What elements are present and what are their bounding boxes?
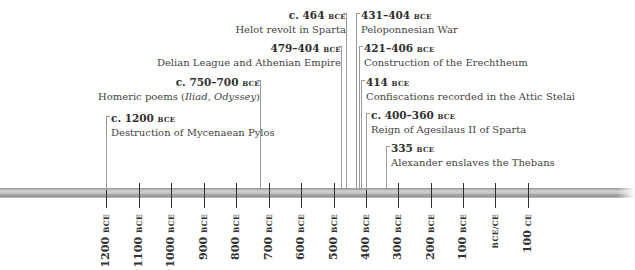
axis-tick — [463, 183, 464, 208]
event-date-era: BCE — [414, 12, 432, 21]
timeline-axis — [0, 188, 635, 198]
timeline-event: c. 1200 BCEDestruction of Mycenaean Pylo… — [111, 112, 275, 139]
axis-tick — [334, 183, 335, 208]
axis-tick-label: 200 BCE — [424, 214, 438, 270]
axis-tick — [236, 183, 237, 208]
event-date-era: BCE — [323, 45, 341, 54]
event-date: c. 750–700 BCE — [98, 76, 260, 90]
event-description: Peloponnesian War — [361, 23, 458, 36]
event-date: 421–406 BCE — [364, 42, 528, 56]
axis-tick-label: 500 BCE — [327, 214, 341, 270]
event-date: 479–404 BCE — [157, 42, 341, 56]
event-date-era: BCE — [417, 145, 435, 154]
event-description: Reign of Agesilaus II of Sparta — [371, 123, 526, 136]
event-bracket — [106, 116, 110, 117]
event-date-value: 479–404 — [270, 42, 323, 54]
tick-year: 400 — [359, 233, 372, 260]
axis-fade — [617, 185, 635, 201]
tick-year: 800 — [229, 233, 242, 260]
tick-era: BCE — [394, 214, 403, 233]
axis-tick — [398, 183, 399, 208]
timeline-event: 431–404 BCEPeloponnesian War — [361, 9, 458, 36]
event-description: Alexander enslaves the Thebans — [391, 156, 555, 169]
tick-year: 700 — [262, 233, 275, 260]
event-date-value: c. 400–360 — [371, 109, 437, 121]
event-description: Delian League and Athenian Empire — [157, 56, 341, 69]
event-date-value: c. 464 — [289, 9, 328, 21]
tick-year: 200 — [424, 233, 437, 260]
axis-tick — [204, 183, 205, 208]
tick-era: BCE — [135, 214, 144, 233]
event-date-era: BCE — [242, 79, 260, 88]
event-date: c. 1200 BCE — [111, 112, 275, 126]
tick-era: BCE — [297, 214, 306, 233]
tick-era: BCE — [232, 214, 241, 233]
event-date-value: 431–404 — [361, 9, 414, 21]
event-date-era: BCE — [158, 115, 176, 124]
tick-year: 600 — [294, 233, 307, 260]
tick-era: BCE/CE — [491, 214, 500, 248]
event-bracket — [366, 113, 370, 114]
axis-tick-label: 1200 BCE — [99, 214, 113, 270]
event-date-value: 414 — [366, 76, 392, 88]
axis-tick-label: 1000 BCE — [164, 214, 178, 270]
event-bracket — [359, 46, 363, 47]
axis-tick — [171, 183, 172, 208]
event-description: Helot revolt in Sparta — [235, 23, 346, 36]
event-date-era: BCE — [328, 12, 346, 21]
timeline-event: 414 BCEConfiscations recorded in the Att… — [366, 76, 575, 103]
event-connector — [346, 13, 347, 190]
timeline-event: c. 750–700 BCEHomeric poems (Iliad, Odys… — [98, 76, 260, 103]
event-date-era: BCE — [392, 79, 410, 88]
timeline-event: 479–404 BCEDelian League and Athenian Em… — [157, 42, 341, 69]
event-connector — [359, 46, 360, 190]
tick-era: BCE — [265, 214, 274, 233]
event-connector — [361, 80, 362, 190]
axis-tick — [301, 183, 302, 208]
timeline: 1200 BCE1100 BCE1000 BCE900 BCE800 BCE70… — [0, 0, 635, 270]
axis-tick-label: 900 BCE — [197, 214, 211, 270]
timeline-event: 335 BCEAlexander enslaves the Thebans — [391, 142, 555, 169]
event-connector — [366, 113, 367, 190]
axis-tick-label: BCE/CE — [488, 214, 502, 270]
timeline-event: c. 464 BCEHelot revolt in Sparta — [235, 9, 346, 36]
event-connector — [341, 46, 342, 190]
event-connector — [260, 80, 261, 190]
event-description: Construction of the Erechtheum — [364, 56, 528, 69]
axis-tick — [139, 183, 140, 208]
tick-year: 100 — [521, 226, 534, 253]
tick-era: CE — [524, 214, 533, 226]
axis-tick — [431, 183, 432, 208]
axis-tick-label: 700 BCE — [262, 214, 276, 270]
event-description: Destruction of Mycenaean Pylos — [111, 126, 275, 139]
tick-year: 100 — [456, 233, 469, 260]
event-bracket — [386, 146, 390, 147]
event-description-part: Homeric poems ( — [98, 91, 185, 102]
event-date: 414 BCE — [366, 76, 575, 90]
event-date-value: 335 — [391, 142, 417, 154]
event-connector — [106, 116, 107, 190]
event-date: c. 464 BCE — [235, 9, 346, 23]
axis-tick-label: 800 BCE — [229, 214, 243, 270]
event-date-value: c. 1200 — [111, 112, 158, 124]
axis-tick-label: 1100 BCE — [132, 214, 146, 270]
event-connector — [386, 146, 387, 190]
tick-year: 1100 — [132, 233, 145, 267]
event-connector — [356, 13, 357, 190]
event-description-part: ) — [256, 91, 260, 102]
tick-era: BCE — [427, 214, 436, 233]
event-date: c. 400–360 BCE — [371, 109, 526, 123]
event-description-part: Iliad — [185, 91, 208, 102]
axis-tick-label: 300 BCE — [391, 214, 405, 270]
timeline-event: 421–406 BCEConstruction of the Erechtheu… — [364, 42, 528, 69]
tick-year: 1000 — [164, 233, 177, 267]
tick-year: 500 — [327, 233, 340, 260]
tick-era: BCE — [330, 214, 339, 233]
event-date: 335 BCE — [391, 142, 555, 156]
tick-era: BCE — [459, 214, 468, 233]
event-description-part: Odyssey — [214, 91, 256, 102]
timeline-event: c. 400–360 BCEReign of Agesilaus II of S… — [371, 109, 526, 136]
axis-tick — [269, 183, 270, 208]
tick-year: 1200 — [99, 233, 112, 267]
axis-tick-label: 600 BCE — [294, 214, 308, 270]
